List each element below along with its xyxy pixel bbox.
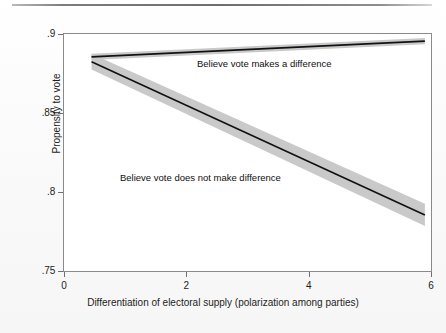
x-tick-mark	[64, 272, 65, 277]
x-tick-mark	[431, 272, 432, 277]
y-tick-label: .85	[15, 107, 55, 118]
x-axis-title: Differentiation of electoral supply (pol…	[0, 297, 446, 308]
annotation-believe-vote-does-not-make-difference: Believe vote does not make difference	[120, 172, 281, 183]
y-tick-label: .9	[15, 28, 55, 39]
x-tick-label: 2	[166, 280, 206, 291]
confidence-band-2	[92, 54, 425, 226]
x-tick-mark	[309, 272, 310, 277]
annotation-believe-vote-makes-difference: Believe vote makes a difference	[197, 58, 331, 69]
x-tick-label: 0	[44, 280, 84, 291]
figure-container: Propensity to vote .75.8.85.9 0246 Belie…	[0, 0, 446, 333]
x-tick-label: 4	[289, 280, 329, 291]
x-tick-label: 6	[411, 280, 446, 291]
y-tick-label: .75	[15, 265, 55, 276]
fit-line-1	[92, 41, 425, 57]
fit-line-2	[92, 62, 425, 215]
x-tick-mark	[186, 272, 187, 277]
chart-canvas	[64, 34, 431, 271]
top-horizontal-rule	[12, 4, 432, 6]
y-tick-label: .8	[15, 186, 55, 197]
